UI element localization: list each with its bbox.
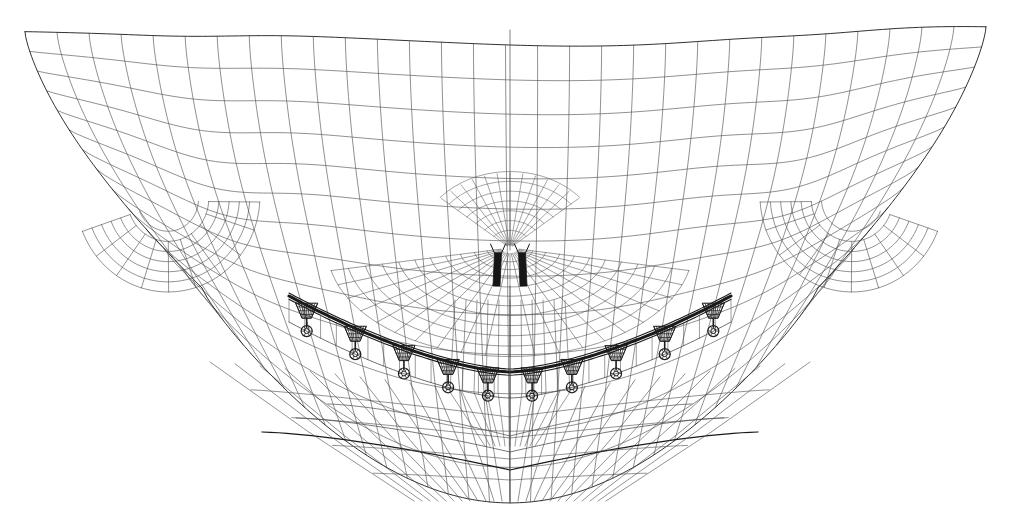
incisor (493, 253, 502, 286)
fem-mesh-svg (0, 0, 1010, 529)
figure-canvas (0, 0, 1010, 529)
canvas-background (0, 0, 1010, 529)
incisor (519, 253, 528, 286)
